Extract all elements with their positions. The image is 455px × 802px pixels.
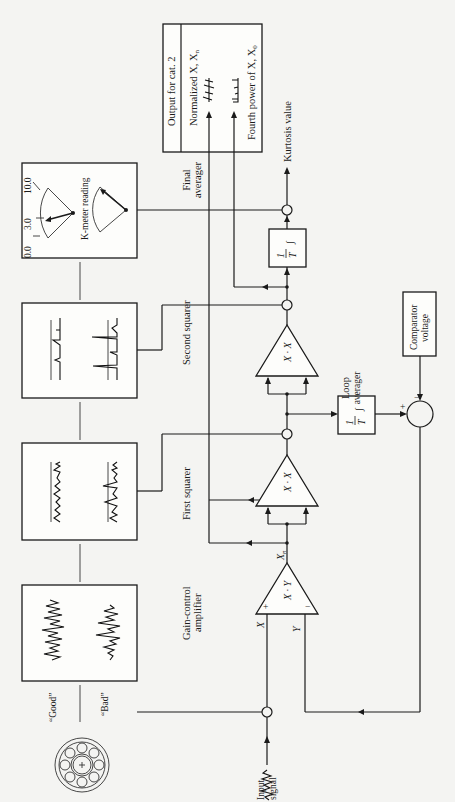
gain-display [22,585,137,681]
kmeter-scale-max: 10.0 [23,177,33,194]
amp-minus: − [305,602,310,612]
kmeter-scale-min: 0.0 [23,246,33,258]
first-sum-node [282,429,292,439]
first-squarer-display [22,443,137,540]
loop-averager-label-1: Loop [340,377,351,399]
final-sum-node [282,205,292,215]
svg-text:1: 1 [275,253,286,258]
kmeter-scale-mid: 3.0 [23,218,33,230]
final-averager-label-1: Final [181,169,192,191]
kmeter-label: K-meter reading [80,177,90,240]
loop-averager-label-2: averager [352,371,362,405]
second-squarer-label: Second squarer [181,300,192,365]
bad-label: “Bad” [100,692,110,716]
final-averager-label-2: averager [192,161,203,198]
comparator-sum-node [407,401,433,427]
kurtosis-block-diagram: 0.0 3.0 10.0 K-meter reading “Good” “Bad… [0,0,455,802]
svg-text:X · X: X · X [282,341,293,363]
good-label: “Good” [48,692,58,722]
input-signal-label-2: signal [268,777,278,800]
kurtosis-value-label: Kurtosis value [282,101,293,162]
first-squarer-label: First squarer [181,467,192,520]
plus-sign: + [400,402,405,412]
xn-signal-label: Xn [275,550,288,561]
final-averager-block [269,229,306,267]
input-signal-label-1: Input [256,780,266,800]
output-box-title: Output for cat. 2 [166,57,177,126]
y-signal-label: Y [291,625,302,632]
svg-text:X · Y: X · Y [282,579,293,601]
bearing-icon [55,738,109,792]
gain-control-label-2: amplifier [192,593,203,632]
gain-control-label-1: Gain-control [181,586,192,640]
input-sum-node [262,707,272,717]
amp-plus: + [263,602,268,612]
comparator-label-2: voltage [420,314,430,342]
second-squarer-display [22,303,137,398]
x-signal-label: X [255,621,266,629]
second-sum-node [282,300,292,310]
svg-text:1: 1 [344,420,355,425]
comparator-label-1: Comparator [409,304,419,350]
svg-text:X · X: X · X [282,471,293,493]
